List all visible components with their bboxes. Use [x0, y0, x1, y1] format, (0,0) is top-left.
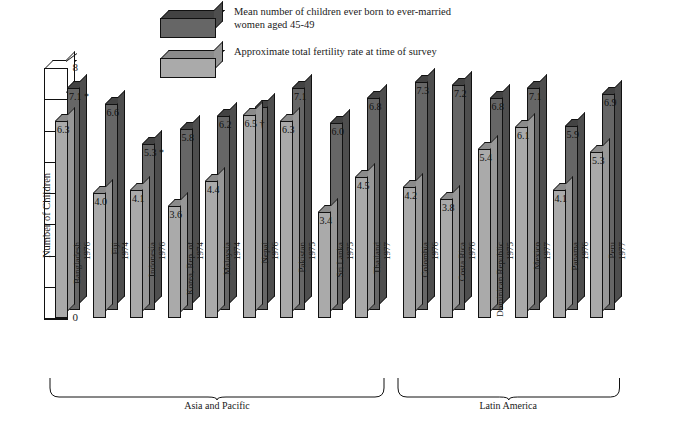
- bar-value-label-mean: 7.3: [417, 85, 430, 96]
- bar-value-label-mean: 6.8: [492, 101, 505, 112]
- bar-fertility-rate: [55, 121, 68, 318]
- bar-value-label-fertility: 6.3: [57, 124, 70, 135]
- x-axis-label-korea-rep-of: Korea, Rep. of1974: [185, 242, 205, 322]
- bar-fertility-rate: [478, 149, 491, 318]
- bar-value-label-mean: 7.1: [529, 91, 542, 102]
- x-axis-label-bangladesh: Bangladesh1976: [72, 242, 92, 322]
- bar-value-label-fertility: 6.5 †: [245, 118, 265, 129]
- y-axis-title: Number of Children: [41, 121, 52, 311]
- bar-fertility-rate: [168, 206, 181, 319]
- bar-value-label-fertility: 4.2: [405, 190, 418, 201]
- bar-value-label-mean: 7.2: [454, 88, 467, 99]
- bar-value-label-fertility: 3.4: [320, 215, 333, 226]
- region-bracket-label: Asia and Pacific: [49, 400, 385, 411]
- bar-value-label-mean: 6.0: [332, 126, 345, 137]
- bar-value-label-fertility: 4.4: [207, 184, 220, 195]
- bar-value-label-mean: 6.6: [107, 107, 120, 118]
- bar-value-label-fertility: 4.1: [132, 193, 145, 204]
- bar-value-label-fertility: 5.3: [592, 155, 605, 166]
- chart-root: Mean number of children ever born to eve…: [0, 0, 685, 422]
- bar-fertility-rate: [355, 177, 368, 318]
- bar-value-label-mean: 6.8: [369, 101, 382, 112]
- x-axis-label-mexico: Mexico1977: [532, 242, 552, 322]
- x-axis-label-panama: Panama1976: [570, 242, 590, 322]
- bar-value-label-fertility: 6.3: [282, 124, 295, 135]
- x-axis-label-indonesia: Indonesia1976: [147, 242, 167, 322]
- x-axis-label-malaysia: Malaysia1974: [222, 242, 242, 322]
- bar-value-label-fertility: 4.1: [555, 193, 568, 204]
- x-axis-label-colombia: Colombia1976: [420, 242, 440, 322]
- bar-value-label-fertility: 4.0: [95, 196, 108, 207]
- bar-fertility-rate: [440, 199, 453, 318]
- bar-value-label-fertility: 3.6: [170, 209, 183, 220]
- bar-fertility-rate: [590, 152, 603, 318]
- bar-value-label-mean: 5.8: [182, 132, 195, 143]
- bar-value-label-mean: 6.9: [604, 97, 617, 108]
- x-axis-label-pakistan: Pakistan1975: [297, 242, 317, 322]
- bar-fertility-rate: [93, 193, 106, 318]
- bar-fertility-rate: [318, 212, 331, 318]
- bar-fertility-rate: [130, 190, 143, 318]
- bar-fertility-rate: [205, 181, 218, 319]
- region-bracket-label: Latin America: [397, 400, 621, 411]
- x-axis-label-dominican-republic: Dominican Republic1975: [495, 242, 515, 322]
- bar-value-label-mean: 5.3 *: [144, 147, 164, 158]
- bar-fertility-rate: [553, 190, 566, 318]
- x-axis-label-sri-lanka: Sri Lanka1975: [335, 242, 355, 322]
- bar-value-label-fertility: 6.1: [517, 130, 530, 141]
- bar-value-label-mean: 5.9: [567, 129, 580, 140]
- x-axis-label-peru: Peru1977: [607, 242, 627, 322]
- bar-fertility-rate: [280, 121, 293, 318]
- region-bracket: Asia and Pacific: [49, 378, 385, 400]
- bar-fertility-rate: [515, 127, 528, 318]
- region-bracket: Latin America: [397, 378, 621, 400]
- bar-value-label-fertility: 3.8: [442, 202, 455, 213]
- bar-value-label-fertility: 5.4: [480, 152, 493, 163]
- bar-value-label-fertility: 4.5: [357, 180, 370, 191]
- x-axis-label-costa-rica: Costa Rica1976: [457, 242, 477, 322]
- bar-fertility-rate: [243, 115, 256, 318]
- x-axis-label-fiji: Fiji1974: [110, 242, 130, 322]
- bar-value-label-mean: 7.1 *: [69, 91, 89, 102]
- bar-value-label-mean: 7.1: [294, 91, 307, 102]
- x-axis-label-thailand: Thailand1977: [372, 242, 392, 322]
- bar-fertility-rate: [403, 187, 416, 318]
- bar-value-label-mean: 6.2: [219, 119, 232, 130]
- x-axis-label-nepal: Nepal1976: [260, 242, 280, 322]
